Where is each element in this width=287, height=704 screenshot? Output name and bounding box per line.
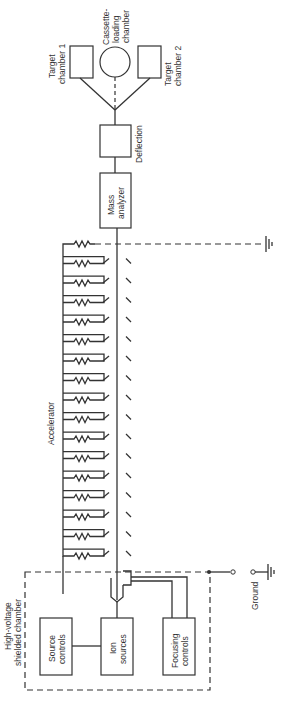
focusing-wire-1 [131,577,187,618]
accelerator-electrode [126,434,131,439]
accelerator-electrode [126,551,131,556]
accelerator-electrode [126,356,131,361]
accelerator-electrode [126,278,131,283]
deflection-label: Deflection [134,125,144,163]
accelerator-electrode [126,298,131,303]
cassette-label-2: loading [111,15,121,43]
beam-line-tc1 [80,78,115,110]
accelerator-electrode [126,512,131,517]
accelerator-electrode [126,317,131,322]
target-chamber-1-label-2: chamber 1 [57,44,67,84]
ion-sources-label-1: Ion [108,642,118,654]
focusing-controls-label-2: controls [180,636,190,666]
chamber-label-1: High-voltage [3,602,13,650]
accelerator-label: Accelerator [46,402,56,445]
ground-icon [268,564,274,580]
ground-label: Ground [250,581,260,610]
cassette-label-3: chamber [121,10,131,43]
accelerator-resistor-ladder [63,241,131,559]
cassette-label-1: Cassette- [101,8,111,45]
ground-terminal-1 [231,570,235,574]
ground-terminal-2 [251,570,255,574]
source-controls: Source controls [40,618,72,675]
accelerator-electrode [126,395,131,400]
chamber-label-2: shielded chamber [13,599,23,666]
accelerator-electrode [126,473,131,478]
mass-analyzer-label-1: Mass [106,195,116,215]
mass-analyzer: Mass analyzer [100,173,131,228]
target-chamber-2: Target chamber 2 [138,46,183,86]
ion-sources-label-2: sources [118,634,128,664]
focusing-controls: Focusing controls [163,618,195,675]
accelerator-electrode [126,415,131,420]
deflection: Deflection [100,125,144,163]
focusing-electrode [123,571,131,585]
ion-implanter-diagram: Target chamber 1 Cassette- loading chamb… [0,0,287,704]
source-controls-label-1: Source [47,635,57,662]
focusing-controls-label-1: Focusing [170,633,180,668]
accelerator-electrode [126,454,131,459]
target-chamber-2-label-2: chamber 2 [173,46,183,86]
resistor-chain [63,241,104,559]
target-chamber-2-label: Target [163,62,173,86]
accelerator-electrode [126,493,131,498]
accelerator-electrode [126,259,131,264]
cassette-loading-chamber: Cassette- loading chamber [100,8,131,77]
ion-sources: Ion sources [101,618,133,675]
target-chamber-1-label: Target [47,54,57,78]
beam-line-tc2 [115,78,150,110]
accelerator-electrode [126,337,131,342]
source-controls-label-2: controls [57,634,67,664]
focusing-wire-2 [131,581,172,618]
target-chamber-1: Target chamber 1 [47,44,93,84]
accelerator-electrode [126,532,131,537]
ground-icon [266,236,272,252]
accelerator-electrode [126,376,131,381]
mass-analyzer-label-2: analyzer [116,187,126,219]
